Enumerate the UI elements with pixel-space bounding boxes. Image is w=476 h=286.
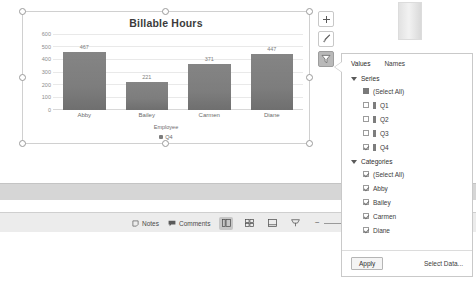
- chart-title[interactable]: Billable Hours: [23, 17, 309, 29]
- checkbox[interactable]: [363, 227, 369, 233]
- filter-row-label: Bailey: [373, 199, 391, 206]
- chart-plot-area: 600 500 400 300 200 100 0 467221371447 A…: [23, 34, 311, 120]
- funnel-icon: [321, 54, 331, 64]
- checkbox[interactable]: [363, 144, 369, 150]
- filter-checkbox-row[interactable]: (Select All): [363, 167, 463, 181]
- checkbox[interactable]: [363, 130, 369, 136]
- bar-rect[interactable]: [251, 54, 294, 110]
- bar-group[interactable]: 447: [251, 34, 294, 110]
- bar-value-label: 447: [267, 47, 276, 53]
- bar-value-label: 221: [142, 75, 151, 81]
- selection-handle-n[interactable]: [162, 8, 169, 15]
- status-bar-center: Notes Comments: [132, 213, 302, 233]
- checkbox[interactable]: [363, 116, 369, 122]
- series-color-swatch-icon: [373, 130, 376, 137]
- y-tick: 100: [42, 94, 51, 100]
- x-axis-title[interactable]: Employee: [23, 124, 309, 130]
- filter-group-header[interactable]: Categories: [351, 158, 463, 165]
- chart-styles-button[interactable]: [318, 31, 334, 47]
- filter-checkbox-row[interactable]: Carmen: [363, 209, 463, 223]
- tab-values[interactable]: Values: [351, 60, 370, 67]
- comments-button[interactable]: Comments: [168, 220, 210, 227]
- filter-row-label: Diane: [373, 227, 390, 234]
- slide-sorter-icon: [245, 219, 254, 227]
- notes-button[interactable]: Notes: [132, 220, 159, 227]
- zoom-out-button[interactable]: −: [315, 219, 320, 227]
- reading-view-button[interactable]: [265, 217, 279, 230]
- bar-value-label: 371: [205, 57, 214, 63]
- chart-object[interactable]: Billable Hours 600 500 400 300 200 100 0: [22, 11, 310, 144]
- selection-handle-ne[interactable]: [306, 8, 313, 15]
- series-color-swatch-icon: [373, 102, 376, 109]
- filter-checkbox-row[interactable]: Bailey: [363, 195, 463, 209]
- filter-row-label: Q1: [380, 102, 389, 109]
- selection-handle-e[interactable]: [306, 74, 313, 81]
- apply-button[interactable]: Apply: [351, 257, 383, 270]
- filter-group-title: Categories: [361, 158, 392, 165]
- plus-icon: [322, 15, 331, 24]
- legend-swatch-icon: [159, 135, 163, 139]
- y-tick: 200: [42, 82, 51, 88]
- expand-triangle-icon: [351, 77, 357, 81]
- bar-rect[interactable]: [126, 82, 169, 110]
- series-color-swatch-icon: [373, 144, 376, 151]
- bar-rect[interactable]: [188, 64, 231, 110]
- checkbox[interactable]: [363, 213, 369, 219]
- filter-checkbox-row[interactable]: Abby: [363, 181, 463, 195]
- comments-label: Comments: [179, 220, 210, 227]
- filter-checkbox-row[interactable]: Q1: [363, 98, 463, 112]
- slide-canvas[interactable]: Billable Hours 600 500 400 300 200 100 0: [0, 0, 476, 200]
- legend-label: Q4: [165, 134, 172, 140]
- filter-checkbox-row[interactable]: (Select All): [363, 84, 463, 98]
- bar-rect[interactable]: [63, 52, 106, 110]
- y-tick: 400: [42, 56, 51, 62]
- selection-handle-nw[interactable]: [19, 8, 26, 15]
- select-data-link[interactable]: Select Data...: [424, 260, 463, 267]
- selection-handle-w[interactable]: [19, 74, 26, 81]
- filter-checkbox-row[interactable]: Q4: [363, 140, 463, 154]
- chart-elements-button[interactable]: [318, 11, 334, 27]
- x-tick-label: Diane: [251, 112, 294, 123]
- selection-handle-se[interactable]: [306, 140, 313, 147]
- filter-checkbox-row[interactable]: Diane: [363, 223, 463, 237]
- notes-icon: [132, 220, 139, 227]
- y-axis: 600 500 400 300 200 100 0: [29, 34, 51, 110]
- series-color-swatch-icon: [373, 116, 376, 123]
- x-tick-label: Carmen: [188, 112, 231, 123]
- bar-group[interactable]: 371: [188, 34, 231, 110]
- filter-checkbox-row[interactable]: Q3: [363, 126, 463, 140]
- slideshow-icon: [291, 219, 300, 227]
- normal-view-button[interactable]: [219, 217, 233, 230]
- expand-triangle-icon: [351, 160, 357, 164]
- selection-handle-sw[interactable]: [19, 140, 26, 147]
- filter-row-label: Q2: [380, 116, 389, 123]
- checkbox[interactable]: [363, 171, 369, 177]
- chart-filters-panel[interactable]: Values Names Series(Select All)Q1Q2Q3Q4C…: [341, 53, 473, 277]
- filter-row-label: Q4: [380, 144, 389, 151]
- bar-value-label: 467: [80, 45, 89, 51]
- notes-label: Notes: [142, 220, 159, 227]
- selection-handle-s[interactable]: [162, 140, 169, 147]
- normal-view-icon: [222, 219, 231, 227]
- x-tick-label: Bailey: [126, 112, 169, 123]
- checkbox[interactable]: [363, 185, 369, 191]
- x-axis: AbbyBaileyCarmenDiane: [53, 112, 303, 123]
- filter-row-label: Q3: [380, 130, 389, 137]
- filter-panel-footer: Apply Select Data...: [342, 250, 472, 276]
- checkbox[interactable]: [363, 88, 369, 94]
- filter-checkbox-row[interactable]: Q2: [363, 112, 463, 126]
- checkbox[interactable]: [363, 199, 369, 205]
- bar-group[interactable]: 467: [63, 34, 106, 110]
- filter-row-label: (Select All): [373, 88, 404, 95]
- y-tick: 0: [48, 107, 51, 113]
- comment-icon: [168, 220, 176, 227]
- checkbox[interactable]: [363, 102, 369, 108]
- slide-sorter-button[interactable]: [242, 217, 256, 230]
- tab-names[interactable]: Names: [384, 60, 405, 67]
- bar-group[interactable]: 221: [126, 34, 169, 110]
- slideshow-button[interactable]: [288, 217, 302, 230]
- filter-row-label: Abby: [373, 185, 388, 192]
- chart-filters-button[interactable]: [318, 51, 334, 67]
- filter-group-header[interactable]: Series: [351, 75, 463, 82]
- filter-panel-pointer: [335, 62, 342, 72]
